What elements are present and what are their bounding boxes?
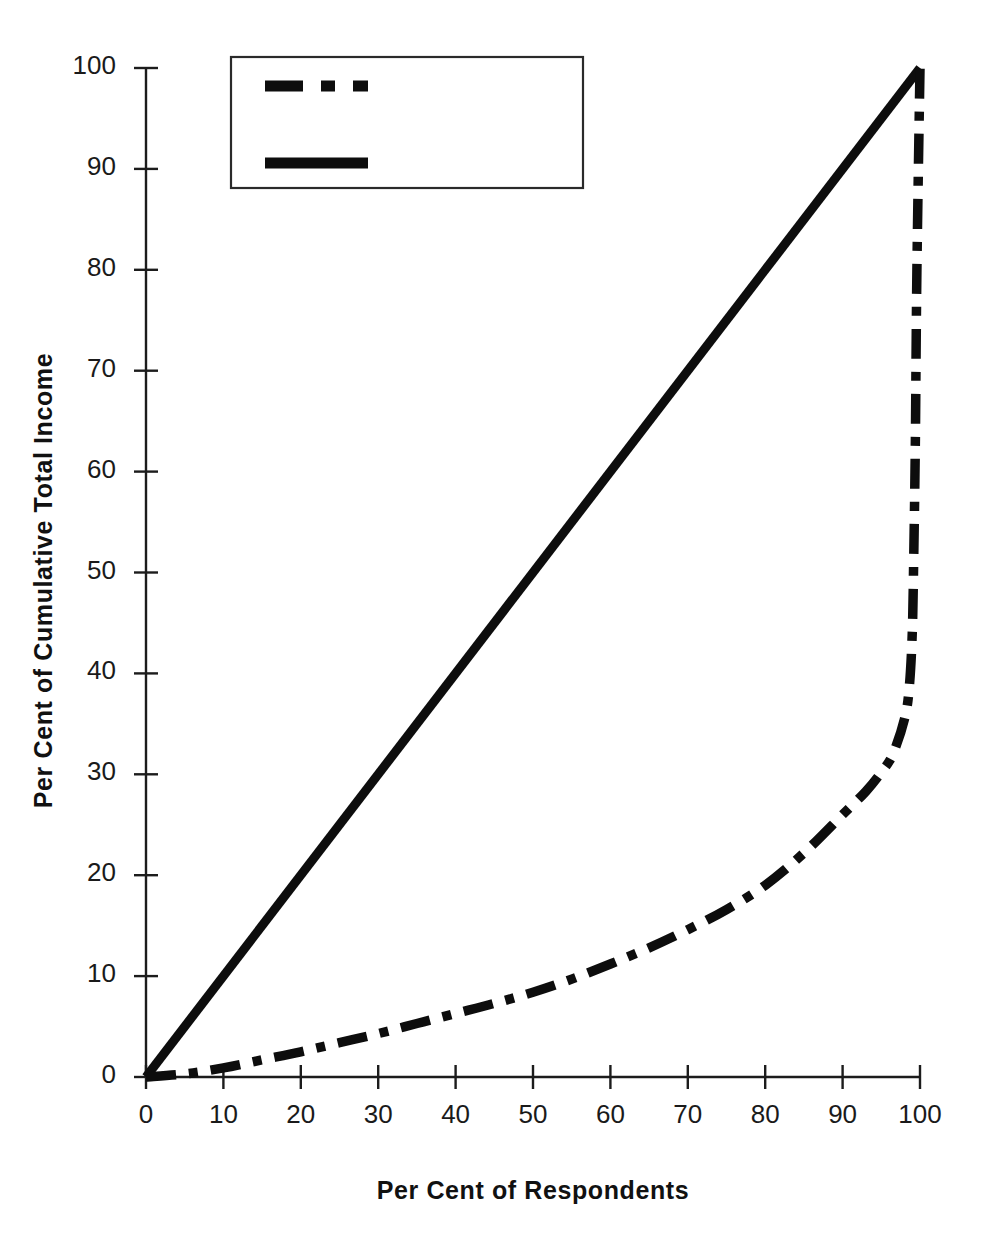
plot-canvas [0, 0, 984, 1256]
series-line-of-equality [146, 68, 920, 1077]
lorenz-curve-chart: Per Cent of Cumulative Total Income Per … [0, 0, 984, 1256]
